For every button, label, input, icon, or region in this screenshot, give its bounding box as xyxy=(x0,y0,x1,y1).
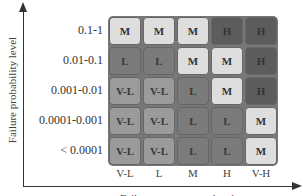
y-axis-title: Failure probability level xyxy=(6,0,18,180)
col-label-0: V-L xyxy=(109,167,141,179)
matrix-cell: M xyxy=(177,47,209,75)
matrix-cell: M xyxy=(109,17,141,45)
col-label-3: H xyxy=(211,167,243,179)
matrix-cell: V-L xyxy=(109,107,141,135)
matrix-cell: L xyxy=(143,47,175,75)
matrix-cell: V-L xyxy=(143,107,175,135)
x-axis-arrow xyxy=(292,182,302,190)
row-label-3: 0.0001-0.001 xyxy=(39,113,103,128)
matrix-cell: M xyxy=(245,137,277,165)
matrix-cell: V-L xyxy=(109,77,141,105)
matrix-cell: H xyxy=(211,17,243,45)
matrix-cell: H xyxy=(245,17,277,45)
matrix-cell: L xyxy=(177,107,209,135)
matrix-cell: M xyxy=(143,17,175,45)
matrix-cell: V-L xyxy=(143,137,175,165)
matrix-cell: M xyxy=(245,107,277,135)
matrix-cell: L xyxy=(211,107,243,135)
row-label-0: 0.1-1 xyxy=(78,23,103,38)
risk-matrix-grid: M M M H H L L M M H V-L V-L L M H V-L V-… xyxy=(108,16,278,166)
matrix-cell: H xyxy=(245,77,277,105)
matrix-cell: M xyxy=(211,77,243,105)
matrix-cell: H xyxy=(245,47,277,75)
x-axis-line xyxy=(23,186,295,187)
matrix-cell: L xyxy=(177,77,209,105)
col-label-1: L xyxy=(143,167,175,179)
matrix-cell: V-L xyxy=(109,137,141,165)
matrix-cell: M xyxy=(211,47,243,75)
x-axis-title: Failure consequence level xyxy=(120,192,234,196)
matrix-cell: L xyxy=(109,47,141,75)
row-label-1: 0.01-0.1 xyxy=(63,53,103,68)
row-label-4: < 0.0001 xyxy=(60,143,103,158)
row-label-2: 0.001-0.01 xyxy=(51,83,103,98)
matrix-cell: L xyxy=(177,137,209,165)
col-label-4: V-H xyxy=(245,167,277,179)
matrix-cell: V-L xyxy=(143,77,175,105)
col-label-2: M xyxy=(177,167,209,179)
matrix-cell: L xyxy=(211,137,243,165)
y-axis-line xyxy=(23,6,24,186)
matrix-cell: M xyxy=(177,17,209,45)
